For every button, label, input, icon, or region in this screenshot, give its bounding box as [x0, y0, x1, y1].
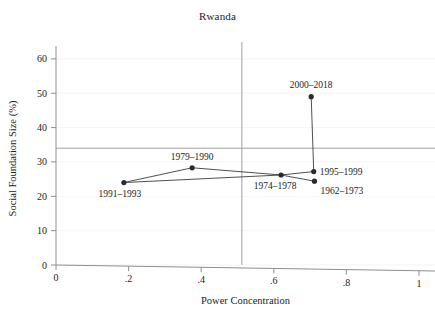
y-tick-label-60: 60: [37, 53, 47, 64]
y-tick-label-20: 20: [37, 191, 47, 202]
y-tick-label-40: 40: [37, 122, 47, 133]
x-tick-label-.2: .2: [125, 273, 133, 284]
series-paths: [124, 97, 315, 183]
gridlines: [56, 59, 435, 265]
data-point-1962–1973: [312, 179, 317, 184]
axis-titles: Power ConcentrationSocial Foundation Siz…: [7, 100, 291, 306]
reference-lines: [56, 42, 435, 265]
data-point-1991–1993: [121, 180, 126, 185]
x-tick-label-.6: .6: [270, 275, 278, 286]
y-tick-label-10: 10: [37, 225, 47, 236]
point-label-1974–1978: 1974–1978: [254, 181, 297, 191]
data-point-2000–2018: [309, 94, 314, 99]
scatter-plot: 1991–19931979–19901974–19781962–19731995…: [0, 0, 435, 318]
y-tick-label-0: 0: [42, 260, 47, 271]
axes: [56, 46, 435, 271]
point-label-1991–1993: 1991–1993: [99, 189, 142, 199]
x-axis-title: Power Concentration: [201, 295, 291, 306]
x-tick-label-.8: .8: [343, 277, 351, 288]
x-tick-label-.4: .4: [197, 274, 205, 285]
point-label-2000–2018: 2000–2018: [290, 80, 333, 90]
point-label-1962–1973: 1962–1973: [320, 186, 363, 196]
y-tick-label-30: 30: [37, 156, 47, 167]
x-tick-label-0: 0: [54, 272, 59, 283]
y-tick-label-50: 50: [37, 88, 47, 99]
data-point-1995–1999: [311, 169, 316, 174]
y-axis-title: Social Foundation Size (%): [7, 100, 19, 216]
chart-figure: Rwanda 1991–19931979–19901974–19781962–1…: [0, 0, 435, 318]
x-axis-line: [56, 265, 435, 271]
data-point-1974–1978: [278, 172, 283, 177]
data-markers: [121, 94, 317, 185]
point-label-1979–1990: 1979–1990: [171, 152, 214, 162]
point-label-1995–1999: 1995–1999: [320, 167, 363, 177]
x-tick-label-1: 1: [417, 278, 422, 289]
tick-marks: [51, 59, 419, 276]
data-point-1979–1990: [190, 165, 195, 170]
point-labels: 1991–19931979–19901974–19781962–19731995…: [99, 80, 364, 199]
